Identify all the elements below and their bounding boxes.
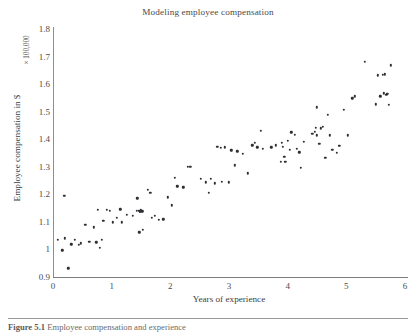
data-point bbox=[256, 146, 258, 148]
y-tick-label: 1.2 bbox=[16, 189, 50, 199]
data-point bbox=[390, 64, 392, 66]
y-tick-label: 1.5 bbox=[16, 107, 50, 117]
data-point bbox=[208, 192, 210, 194]
data-point bbox=[70, 243, 72, 245]
data-point bbox=[316, 134, 318, 136]
x-axis-tick-labels: 0123456 bbox=[0, 281, 416, 295]
data-point bbox=[216, 146, 218, 148]
data-point bbox=[88, 241, 90, 243]
x-tick-label: 3 bbox=[227, 281, 232, 291]
data-point bbox=[84, 223, 86, 225]
data-point bbox=[259, 130, 261, 132]
data-point bbox=[149, 192, 151, 194]
y-tick-label: 1.4 bbox=[16, 134, 50, 144]
data-point bbox=[296, 147, 298, 149]
data-point bbox=[298, 151, 300, 153]
data-point bbox=[56, 239, 58, 241]
data-point bbox=[63, 195, 65, 197]
data-point bbox=[126, 214, 128, 216]
data-point bbox=[289, 148, 291, 150]
data-point bbox=[351, 97, 353, 99]
caption-divider bbox=[8, 318, 408, 319]
data-point bbox=[275, 144, 277, 146]
data-point bbox=[379, 95, 381, 97]
data-point bbox=[331, 149, 333, 151]
data-point bbox=[142, 228, 144, 230]
data-point bbox=[214, 182, 216, 184]
data-point bbox=[167, 196, 169, 198]
y-tick-label: 1.1 bbox=[16, 217, 50, 227]
data-point bbox=[200, 177, 202, 179]
data-point bbox=[281, 141, 283, 143]
data-point bbox=[315, 127, 317, 129]
data-point bbox=[329, 134, 331, 136]
data-point bbox=[109, 209, 111, 211]
data-point bbox=[64, 237, 66, 239]
data-point bbox=[283, 155, 285, 157]
x-axis-line bbox=[53, 277, 408, 278]
plot-area bbox=[53, 29, 405, 277]
data-point bbox=[326, 114, 328, 116]
x-tick-label: 4 bbox=[285, 281, 290, 291]
data-point bbox=[286, 140, 288, 142]
x-tick-label: 1 bbox=[109, 281, 114, 291]
data-point bbox=[67, 267, 69, 269]
data-point bbox=[353, 95, 355, 97]
x-tick-label: 0 bbox=[51, 281, 56, 291]
data-point bbox=[176, 185, 178, 187]
data-point bbox=[182, 186, 184, 188]
data-point bbox=[338, 144, 340, 146]
data-point bbox=[136, 197, 138, 199]
data-point bbox=[247, 172, 249, 174]
data-point bbox=[279, 161, 281, 163]
data-point bbox=[311, 133, 313, 135]
data-point bbox=[162, 218, 164, 220]
data-point bbox=[102, 220, 104, 222]
data-point bbox=[174, 177, 176, 179]
data-point bbox=[242, 152, 244, 154]
data-point bbox=[270, 146, 272, 148]
x-tick-label: 6 bbox=[403, 281, 408, 291]
data-point bbox=[290, 131, 292, 133]
data-point bbox=[262, 148, 264, 150]
y-tick-label: 1.8 bbox=[16, 24, 50, 34]
data-point bbox=[364, 61, 366, 63]
data-point bbox=[374, 103, 376, 105]
data-point bbox=[220, 147, 222, 149]
data-point bbox=[230, 149, 232, 151]
data-point bbox=[316, 106, 318, 108]
data-point bbox=[61, 249, 63, 251]
figure-caption-body: Employee compensation and experience bbox=[47, 322, 186, 332]
data-point bbox=[120, 221, 122, 223]
data-point bbox=[299, 167, 301, 169]
data-point bbox=[210, 178, 212, 180]
x-tick-label: 5 bbox=[344, 281, 349, 291]
data-point bbox=[141, 210, 143, 212]
data-point bbox=[294, 133, 296, 135]
data-point bbox=[93, 226, 95, 228]
y-tick-label: 1.6 bbox=[16, 79, 50, 89]
data-point bbox=[119, 208, 121, 210]
data-point bbox=[154, 214, 156, 216]
y-tick-label: 1 bbox=[16, 244, 50, 254]
data-point bbox=[157, 218, 159, 220]
figure-caption: Figure 5.1 Employee compensation and exp… bbox=[8, 322, 408, 332]
data-point bbox=[112, 221, 114, 223]
data-point bbox=[377, 74, 379, 76]
data-point bbox=[234, 164, 236, 166]
x-axis-title: Years of experience bbox=[53, 294, 405, 304]
data-point bbox=[284, 161, 286, 163]
data-point bbox=[74, 238, 76, 240]
data-point bbox=[318, 143, 320, 145]
data-point bbox=[79, 242, 81, 244]
data-point bbox=[116, 217, 118, 219]
data-point bbox=[336, 152, 338, 154]
data-point bbox=[303, 141, 305, 143]
data-point bbox=[150, 217, 152, 219]
data-point bbox=[228, 181, 230, 183]
scatter-points-layer bbox=[53, 29, 405, 277]
data-point bbox=[319, 127, 321, 129]
data-point bbox=[100, 238, 102, 240]
data-point bbox=[189, 166, 191, 168]
